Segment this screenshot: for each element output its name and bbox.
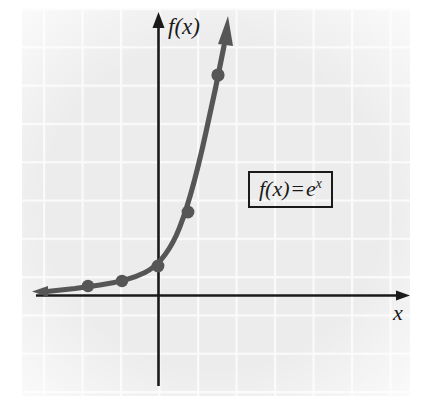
- data-point: [211, 68, 224, 81]
- data-point: [82, 280, 94, 292]
- formula-left-side: f(x): [259, 176, 290, 201]
- y-axis-label-text: f(x): [168, 14, 200, 39]
- data-point: [182, 206, 195, 219]
- x-axis-label-text: x: [393, 300, 403, 325]
- plot-canvas: [0, 0, 429, 410]
- formula-exponent: x: [316, 176, 322, 191]
- x-axis-label: x: [393, 300, 403, 326]
- grid-background: [0, 0, 429, 410]
- formula-base: e: [306, 176, 316, 201]
- data-point: [116, 275, 128, 287]
- formula-annotation-box: f(x)=ex: [248, 171, 333, 208]
- data-point: [152, 260, 165, 273]
- y-axis-label: f(x): [168, 14, 200, 40]
- exponential-function-figure: f(x) x f(x)=ex: [0, 0, 429, 410]
- formula-equals-sign: =: [290, 176, 306, 201]
